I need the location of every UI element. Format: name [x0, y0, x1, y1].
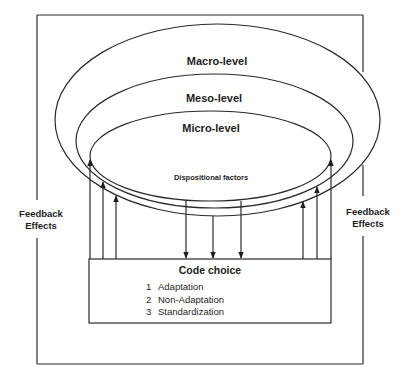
- feedback-label-line1: Feedback: [19, 208, 64, 219]
- downward-arrows: [186, 201, 241, 258]
- feedback-effects-left: Feedback Effects: [19, 208, 64, 231]
- code-choice-box: Code choice 1 Adaptation 2 Non-Adaptatio…: [89, 259, 331, 323]
- code-choice-item-number: 2: [146, 294, 151, 305]
- meso-level-label: Meso-level: [186, 92, 242, 104]
- feedback-effects-right: Feedback Effects: [346, 206, 391, 229]
- right-feedback-arrows: [303, 160, 331, 259]
- dispositional-factors-label: Dispositional factors: [174, 173, 248, 182]
- feedback-label-line1: Feedback: [346, 206, 391, 217]
- left-feedback-arrows: [90, 160, 116, 259]
- code-choice-title: Code choice: [179, 264, 242, 276]
- code-choice-item-label: Non-Adaptation: [158, 294, 224, 305]
- code-choice-item-label: Standardization: [158, 306, 224, 317]
- feedback-label-line2: Effects: [25, 220, 57, 231]
- code-choice-diagram: Macro-level Meso-level Micro-level Dispo…: [0, 0, 407, 381]
- feedback-label-line2: Effects: [352, 218, 384, 229]
- code-choice-item-number: 1: [146, 281, 151, 292]
- code-choice-item-number: 3: [146, 306, 151, 317]
- micro-level-label: Micro-level: [182, 122, 239, 134]
- macro-level-label: Macro-level: [187, 55, 248, 67]
- code-choice-item-label: Adaptation: [158, 281, 203, 292]
